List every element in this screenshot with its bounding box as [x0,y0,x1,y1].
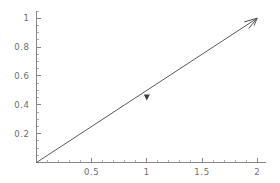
x-tick-label: 0.5 [84,167,99,177]
x-axis-major-ticks [92,158,258,163]
y-tick-label: 0.6 [14,71,29,81]
chart-figure: 0.511.52 0.20.40.60.81 [0,0,280,183]
y-tick-label: 1 [23,13,29,23]
x-tick-label: 2 [254,167,260,177]
y-axis-tick-labels: 0.20.40.60.81 [14,13,29,138]
y-tick-label: 0.2 [14,129,29,139]
vector-line [37,18,258,162]
y-tick-label: 0.4 [14,100,29,110]
y-axis-major-ticks [37,18,42,133]
data-series-group [37,18,258,162]
x-tick-label: 1 [144,167,150,177]
x-tick-label: 1.5 [194,167,209,177]
y-tick-label: 0.8 [14,42,29,52]
x-axis-tick-labels: 0.511.52 [84,167,260,177]
direction-marker [144,95,150,101]
plot-canvas: 0.511.52 0.20.40.60.81 [0,0,280,183]
